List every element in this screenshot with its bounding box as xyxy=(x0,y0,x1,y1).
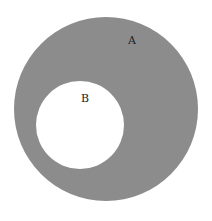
inner-circle-b xyxy=(36,81,124,169)
label-b: B xyxy=(81,92,89,105)
venn-diagram: A B xyxy=(0,0,212,221)
label-a: A xyxy=(127,34,137,47)
